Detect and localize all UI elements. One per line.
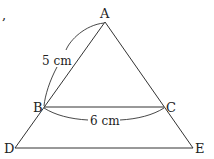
segment-AD (15, 22, 105, 148)
measure-AB: 5 cm (42, 54, 72, 68)
arc-AB-upper (66, 23, 104, 50)
label-A: A (99, 6, 110, 21)
stray-mark: , (2, 7, 6, 22)
arc-BC-right (120, 108, 164, 120)
arc-BC-left (44, 108, 88, 120)
label-C: C (166, 100, 176, 115)
label-D: D (4, 141, 14, 156)
triangle-diagram: , 5 cm 6 cm A B C D E (0, 0, 214, 159)
label-E: E (195, 141, 205, 156)
measure-BC: 6 cm (90, 114, 120, 128)
segment-AE (105, 22, 193, 148)
label-B: B (33, 100, 43, 115)
arc-AB-lower (44, 67, 57, 106)
